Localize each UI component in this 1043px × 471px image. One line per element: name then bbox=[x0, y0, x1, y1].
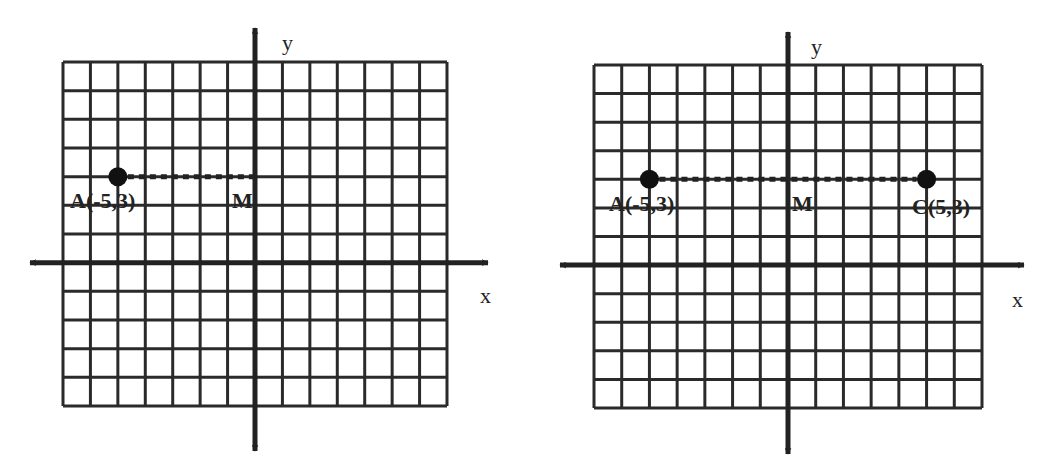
point-c-dot bbox=[917, 170, 936, 189]
midpoint-m-label: M bbox=[232, 188, 253, 213]
figure: y x A(-5,3) M y x A(-5,3) M C(5,3) bbox=[0, 0, 1043, 471]
x-axis-label: x bbox=[1012, 287, 1023, 312]
midpoint-m-label: M bbox=[792, 191, 813, 216]
graph-left bbox=[30, 28, 488, 451]
point-a-dot bbox=[108, 167, 127, 186]
y-axis-label: y bbox=[811, 34, 822, 59]
x-axis-label: x bbox=[480, 283, 491, 308]
point-a-label: A(-5,3) bbox=[609, 191, 674, 216]
graph-right bbox=[560, 32, 1024, 454]
point-c-label: C(5,3) bbox=[912, 194, 970, 219]
y-axis-label: y bbox=[282, 30, 293, 55]
point-a-label: A(-5,3) bbox=[70, 188, 135, 213]
point-a-dot bbox=[640, 170, 659, 189]
